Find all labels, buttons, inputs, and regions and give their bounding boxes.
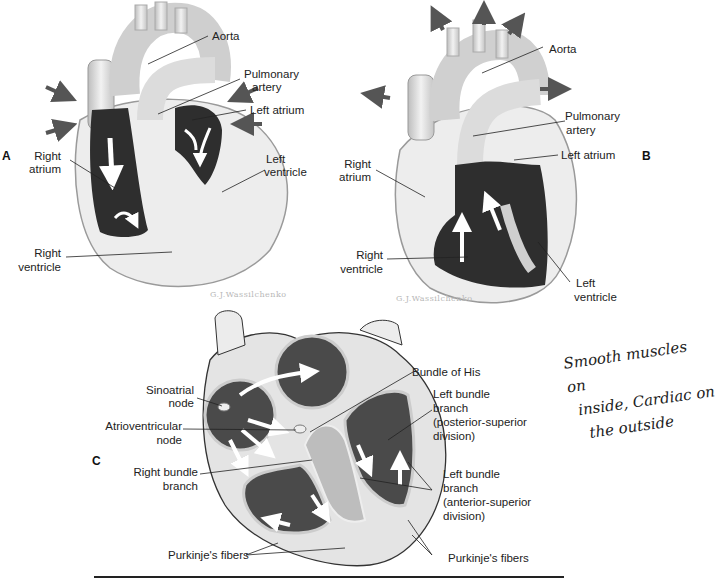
panel-c-heart — [183, 311, 446, 566]
label-b-right-ventricle-2: ventricle — [332, 263, 383, 276]
label-c-av-node-2: node — [100, 434, 182, 447]
label-c-right-bundle-2: branch — [110, 480, 198, 493]
label-a-right-ventricle-2: ventricle — [10, 261, 61, 274]
panel-a-heart — [46, 2, 287, 286]
label-b-right-atrium-2: atrium — [330, 171, 371, 184]
label-a-right-atrium-1: Right — [34, 150, 61, 163]
label-b-left-atrium: Left atrium — [561, 149, 615, 162]
panel-b-heart — [372, 12, 576, 303]
credit-b: G.J.Wassilchenko — [396, 294, 473, 303]
label-c-lbb-posterior-2: branch — [433, 402, 468, 415]
bottom-divider — [94, 576, 564, 578]
label-c-lbb-anterior-2: branch — [443, 482, 478, 495]
label-c-bundle-of-his: Bundle of His — [412, 366, 480, 379]
label-b-pulmonary-artery-1: Pulmonary — [565, 110, 620, 123]
label-c-purkinje-right: Purkinje's fibers — [448, 552, 529, 565]
handwritten-note: Smooth muscles on inside, Cardiac on the… — [562, 332, 719, 447]
label-b-aorta: Aorta — [549, 43, 577, 56]
label-c-lbb-posterior-1: Left bundle — [433, 388, 490, 401]
label-b-right-ventricle-1: Right — [352, 249, 383, 262]
label-b-right-atrium-1: Right — [340, 158, 371, 171]
panel-letter-a: A — [2, 149, 11, 163]
label-a-right-ventricle-1: Right — [30, 247, 61, 260]
label-c-av-node-1: Atrioventricular — [100, 420, 182, 433]
label-c-lbb-posterior-4: division) — [433, 430, 475, 443]
label-a-pulmonary-artery-2: artery — [252, 81, 281, 94]
label-c-lbb-posterior-3: (posterior-superior — [433, 416, 527, 429]
label-c-lbb-anterior-4: division) — [443, 510, 485, 523]
label-c-lbb-anterior-1: Left bundle — [443, 468, 500, 481]
label-a-left-ventricle-1: Left — [266, 153, 285, 166]
label-c-lbb-anterior-3: (anterior-superior — [443, 496, 531, 509]
label-b-left-ventricle-2: ventricle — [574, 291, 617, 304]
label-a-aorta: Aorta — [212, 30, 240, 43]
label-b-pulmonary-artery-2: artery — [566, 124, 595, 137]
label-c-sa-node-1: Sinoatrial — [130, 384, 194, 397]
label-a-pulmonary-artery-1: Pulmonary — [244, 68, 299, 81]
label-c-purkinje-left: Purkinje's fibers — [168, 549, 249, 562]
panel-letter-c: C — [92, 454, 101, 468]
label-a-right-atrium-2: atrium — [22, 163, 61, 176]
label-c-right-bundle-1: Right bundle — [110, 466, 198, 479]
credit-a: G.J.Wassilchenko — [210, 290, 287, 299]
label-c-sa-node-2: node — [130, 397, 194, 410]
label-a-left-ventricle-2: ventricle — [264, 166, 307, 179]
panel-letter-b: B — [642, 149, 651, 163]
label-b-left-ventricle-1: Left — [576, 277, 595, 290]
label-a-left-atrium: Left atrium — [250, 104, 304, 117]
